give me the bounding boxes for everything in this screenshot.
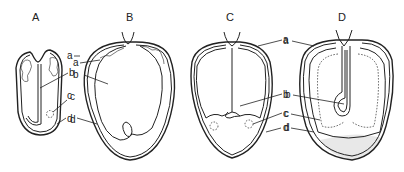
seed-section-diagram: A a b c d B a b c d (0, 0, 404, 172)
panel-b: B a b c d (70, 11, 175, 160)
inner-coat-line (20, 53, 59, 132)
label-c: c (284, 108, 289, 119)
leader-a (80, 60, 100, 63)
wavy-membrane (100, 46, 164, 64)
embryo-axis (225, 112, 240, 118)
leader-d (57, 118, 66, 124)
dotted-circle-left (210, 122, 218, 130)
embryo-loop (123, 122, 132, 137)
label-b: b (73, 69, 79, 80)
leader-d (291, 128, 314, 132)
label-d: d (70, 114, 76, 125)
leader-b (40, 73, 68, 88)
embryo-axis (334, 46, 350, 116)
leader-d (77, 118, 97, 124)
dotted-circle-right (245, 120, 253, 128)
panel-a-title: A (32, 11, 40, 23)
leader-c (291, 114, 320, 120)
hilum-notch (336, 30, 352, 46)
dotted-cotyledon-outline (318, 54, 379, 127)
label-d: d (284, 122, 290, 133)
cotyledon-right (49, 58, 58, 77)
panel-c: C a b c d (191, 11, 289, 158)
label-a: a (283, 35, 289, 46)
leader-b (240, 94, 282, 106)
hilum-notch (224, 32, 240, 46)
leader-d (266, 128, 281, 132)
panel-d: D a b c d (283, 11, 393, 160)
embryo-axis (28, 64, 38, 122)
cotyledons-outline (196, 48, 265, 118)
label-a: a (73, 57, 79, 68)
panel-b-title: B (126, 11, 133, 23)
panel-c-title: C (226, 11, 234, 23)
leader-a (292, 41, 314, 46)
leader-a (258, 40, 282, 46)
cotyledon-left (21, 60, 32, 82)
label-b: b (285, 89, 291, 100)
panel-d-title: D (338, 11, 346, 23)
label-c: c (70, 91, 75, 102)
endosperm-outline (95, 46, 163, 140)
dotted-circle (47, 111, 54, 118)
diagram-canvas: A a b c d B a b c d (0, 0, 404, 172)
